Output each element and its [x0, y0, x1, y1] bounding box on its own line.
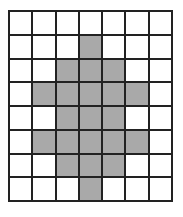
grid-cell-shaded — [32, 82, 55, 106]
grid-cell-empty — [125, 177, 148, 201]
grid-cell-empty — [9, 106, 32, 130]
grid-cell-empty — [9, 35, 32, 59]
grid-cell-shaded — [79, 154, 102, 178]
grid-cell-empty — [125, 35, 148, 59]
grid-cell-empty — [125, 59, 148, 83]
grid-cell-empty — [125, 154, 148, 178]
grid-cell-empty — [125, 106, 148, 130]
grid-cell-shaded — [79, 35, 102, 59]
grid-cell-shaded — [56, 154, 79, 178]
grid-cell-empty — [125, 11, 148, 35]
grid-cell-empty — [32, 154, 55, 178]
grid-cell-shaded — [56, 82, 79, 106]
grid-cell-empty — [32, 106, 55, 130]
grid-cell-empty — [9, 130, 32, 154]
grid-cell-empty — [9, 154, 32, 178]
grid-cell-empty — [32, 35, 55, 59]
grid-cell-empty — [56, 177, 79, 201]
grid-cell-empty — [102, 177, 125, 201]
grid-cell-empty — [149, 82, 172, 106]
grid-cell-shaded — [32, 130, 55, 154]
grid-cell-shaded — [125, 130, 148, 154]
grid-cell-shaded — [79, 177, 102, 201]
grid-cell-empty — [32, 11, 55, 35]
grid-cell-shaded — [125, 82, 148, 106]
grid-cell-empty — [149, 130, 172, 154]
grid-cell-shaded — [56, 59, 79, 83]
grid-cell-empty — [56, 11, 79, 35]
grid-cell-shaded — [79, 130, 102, 154]
grid-cell-empty — [9, 59, 32, 83]
grid-cell-empty — [102, 35, 125, 59]
grid-cell-shaded — [102, 59, 125, 83]
grid-cell-empty — [56, 35, 79, 59]
grid-cell-shaded — [102, 130, 125, 154]
grid-cell-shaded — [79, 59, 102, 83]
grid-cell-shaded — [102, 82, 125, 106]
shaded-grid-diagram — [8, 10, 173, 202]
grid-cell-shaded — [79, 106, 102, 130]
grid-cell-empty — [32, 59, 55, 83]
grid-cell-empty — [149, 59, 172, 83]
grid-cell-empty — [9, 177, 32, 201]
grid-cell-shaded — [56, 130, 79, 154]
grid-cell-empty — [149, 106, 172, 130]
grid-cell-empty — [9, 11, 32, 35]
grid-cell-shaded — [102, 154, 125, 178]
grid-cell-shaded — [56, 106, 79, 130]
grid-cell-empty — [32, 177, 55, 201]
grid-cell-empty — [149, 154, 172, 178]
grid-cell-empty — [79, 11, 102, 35]
grid-cell-empty — [9, 82, 32, 106]
grid-cell-shaded — [79, 82, 102, 106]
grid-cell-empty — [149, 35, 172, 59]
grid-cell-empty — [102, 11, 125, 35]
grid-cell-empty — [149, 11, 172, 35]
grid-cell-shaded — [102, 106, 125, 130]
grid-cell-empty — [149, 177, 172, 201]
